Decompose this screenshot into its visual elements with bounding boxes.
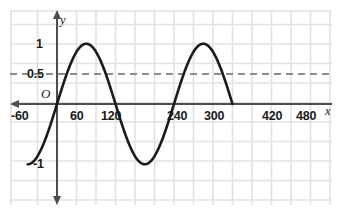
plot-area [10, 10, 332, 205]
x-tick-label-300: 300 [204, 110, 224, 123]
y-tick-label-neg-1: -1 [33, 158, 44, 171]
origin-label: O [41, 87, 50, 100]
x-axis-arrow-left [10, 100, 19, 108]
curve-layer [10, 10, 332, 205]
y-axis-arrow-down [53, 196, 61, 205]
x-tick-label-120: 120 [101, 110, 121, 123]
x-tick-label-240: 240 [167, 110, 187, 123]
y-tick-label-1: 1 [36, 38, 43, 51]
x-axis-label: x [325, 105, 331, 118]
x-tick-label-420: 420 [262, 110, 282, 123]
sine-curve-figure: y x O 1 0.5 -1 -60 60 120 240 300 420 48… [0, 0, 342, 212]
y-axis-label: y [60, 14, 66, 27]
y-tick-label-0-5: 0.5 [27, 68, 44, 81]
x-tick-label-480: 480 [296, 110, 316, 123]
x-tick-label-60: 60 [70, 110, 84, 123]
x-tick-label-neg-60: -60 [11, 110, 28, 123]
